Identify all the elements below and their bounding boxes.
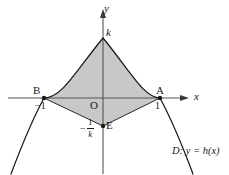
fraction-numerator: 1 <box>87 118 94 127</box>
origin-label: O <box>90 100 98 111</box>
point-e-label: E <box>106 120 113 131</box>
point-a-label: A <box>156 85 164 96</box>
point-b-label: B <box>33 85 40 96</box>
y-tick-label-negative-one-over-k: − 1 k <box>80 118 94 139</box>
x-tick-label-one: 1 <box>155 101 160 111</box>
curve-label: D: y = h(x) <box>172 146 220 157</box>
x-tick-label-negative-one: −1 <box>35 101 46 111</box>
fraction-denominator: k <box>87 130 93 139</box>
x-axis-arrowhead <box>180 95 189 101</box>
point-e-dot <box>101 124 105 128</box>
figure-canvas: y x k O B −1 A 1 E − 1 k D: y = h(x) <box>0 0 229 175</box>
fraction-sign: − <box>80 124 86 134</box>
shaded-region-lower <box>44 98 160 126</box>
fraction-stack: 1 k <box>87 118 94 139</box>
y-axis-label: y <box>104 3 109 14</box>
x-axis-label: x <box>194 91 199 102</box>
vertex-value-label: k <box>106 27 111 38</box>
